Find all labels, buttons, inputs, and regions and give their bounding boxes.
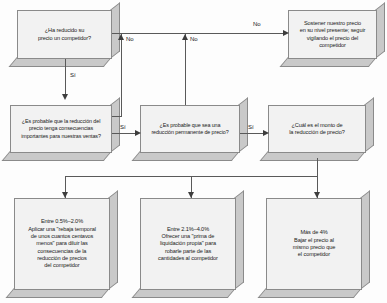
flowchart-canvas: No No No Sí Sí Sí ¿Ha reducido su precio…	[0, 0, 387, 303]
node-label: Más de 4% Bajar el precio al mismo preci…	[289, 227, 340, 261]
node-accion-prima-liquidacion[interactable]: Entre 2.1%–4.0% Ofrecer una "prima de li…	[140, 198, 244, 298]
arrowhead-q1-to-hold	[283, 30, 289, 36]
edge-label-q1-no: No	[253, 21, 261, 27]
node-front-face: Sostener nuestro precio en su nivel pres…	[288, 10, 377, 59]
arrowhead-q3-no	[182, 34, 188, 40]
node-front-face: ¿Es probable que la reducción del precio…	[10, 105, 112, 153]
arrowhead-q2-to-q3	[135, 130, 141, 136]
edge-label-q3-si: Sí	[248, 124, 254, 130]
node-front-face: ¿Es probable que sea una reducción perma…	[140, 105, 240, 153]
node-accion-rebaja-temporal[interactable]: Entre 0.5%–2.0% Aplicar una "rebaja temp…	[14, 198, 118, 298]
arrowhead-q3-to-q4	[263, 130, 269, 136]
node-label: ¿Cuál es el monto de la reducción de pre…	[285, 120, 349, 139]
node-label: ¿Es probable que sea una reducción perma…	[147, 120, 232, 138]
arrowhead-to-a2	[188, 192, 194, 198]
node-label: ¿Ha reducido su precio un competidor?	[34, 25, 95, 44]
node-sostener-precio[interactable]: Sostener nuestro precio en su nivel pres…	[288, 10, 385, 67]
edge-label-q2-si: Sí	[120, 124, 126, 130]
connector-q2-no-horizontal	[112, 116, 122, 117]
node-label: Entre 0.5%–2.0% Aplicar una "rebaja temp…	[24, 216, 100, 272]
node-label: ¿Es probable que la reducción del precio…	[17, 116, 105, 141]
edge-label-q1-si: Sí	[70, 72, 76, 78]
node-label: Entre 2.1%–4.0% Ofrecer una "prima de li…	[154, 224, 222, 265]
node-reduccion-permanente[interactable]: ¿Es probable que sea una reducción perma…	[140, 105, 248, 161]
node-front-face: Entre 0.5%–2.0% Aplicar una "rebaja temp…	[14, 198, 110, 290]
connector-q3-no-vertical	[185, 34, 186, 106]
connector-q1-to-q2	[65, 58, 66, 97]
arrowhead-q2-no	[118, 34, 124, 40]
node-front-face: ¿Ha reducido su precio un competidor?	[17, 10, 112, 59]
edge-label-q3-no: No	[190, 36, 198, 42]
node-accion-bajar-precio[interactable]: Más de 4% Bajar el precio al mismo preci…	[266, 198, 370, 298]
connector-q1-to-hold	[112, 33, 284, 34]
arrowhead-to-a1	[62, 192, 68, 198]
edge-label-q2-no: No	[126, 36, 134, 42]
arrowhead-q1-to-q2	[62, 94, 68, 100]
node-ha-reducido-precio[interactable]: ¿Ha reducido su precio un competidor?	[17, 10, 120, 67]
connector-q2-no-vertical	[121, 34, 122, 116]
node-label: Sostener nuestro precio en su nivel pres…	[289, 18, 376, 52]
node-front-face: ¿Cuál es el monto de la reducción de pre…	[268, 105, 366, 153]
node-front-face: Más de 4% Bajar el precio al mismo preci…	[266, 198, 362, 290]
node-consecuencias-ventas[interactable]: ¿Es probable que la reducción del precio…	[10, 105, 120, 161]
node-front-face: Entre 2.1%–4.0% Ofrecer una "prima de li…	[140, 198, 236, 290]
arrowhead-to-a3	[314, 192, 320, 198]
node-monto-reduccion[interactable]: ¿Cuál es el monto de la reducción de pre…	[268, 105, 374, 161]
